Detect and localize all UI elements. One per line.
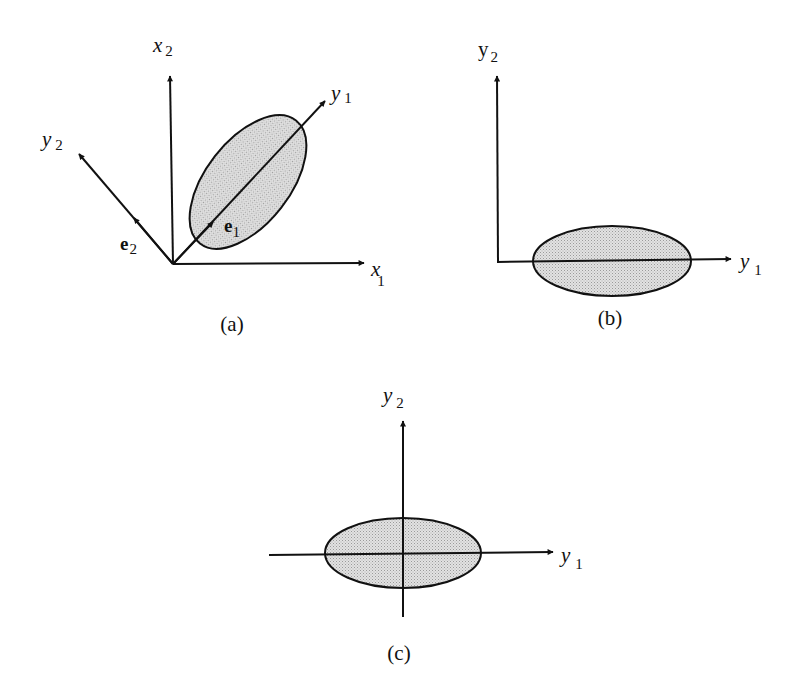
y2-axis — [497, 76, 498, 263]
panel-b: y2 y1 (b) — [478, 37, 762, 330]
y1-label: y1 — [559, 543, 583, 572]
y1-label: y1 — [329, 81, 352, 106]
panel-c: y2 y1 (c) — [269, 383, 583, 665]
caption-a: (a) — [220, 312, 243, 336]
y2-label: y2 — [40, 127, 63, 153]
x2-axis — [170, 76, 173, 264]
e2-label: e2 — [120, 233, 137, 257]
x1-label: x1 — [370, 257, 385, 289]
caption-c: (c) — [387, 641, 410, 665]
caption-b: (b) — [598, 306, 623, 330]
e2-vector — [134, 218, 173, 264]
y2-label: y2 — [381, 383, 404, 411]
x2-label: x2 — [152, 33, 173, 59]
x1-axis — [173, 263, 364, 264]
diagram-canvas: x2 y1 y2 x1 e1 e2 (a) y2 y1 (b) y2 y1 (c… — [0, 0, 797, 698]
panel-a: x2 y1 y2 x1 e1 e2 (a) — [40, 33, 385, 336]
y2-label: y2 — [478, 37, 498, 65]
y1-label: y1 — [738, 249, 762, 278]
